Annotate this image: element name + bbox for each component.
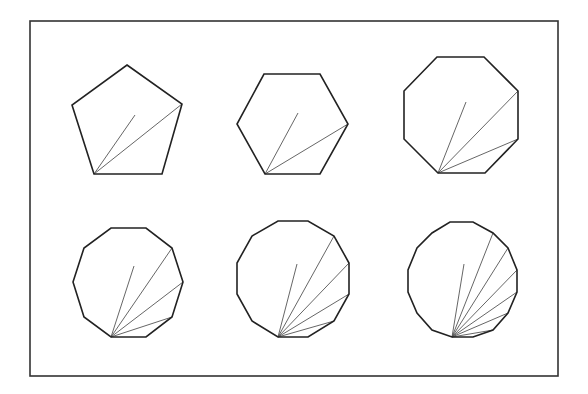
pentagon-diagonal-1	[94, 104, 182, 174]
polygon-group	[72, 57, 518, 337]
pentagon-outline	[72, 65, 182, 174]
hexagon-diagonal-0	[265, 113, 298, 174]
tetradecagon-diagonal-1	[452, 233, 493, 337]
dodecagon-diagonal-0	[278, 264, 297, 337]
octagon-diagonal-1	[438, 91, 518, 173]
tetradecagon-figure	[408, 222, 517, 337]
polygon-diagram	[0, 0, 588, 394]
hexagon-diagonal-1	[265, 124, 348, 174]
octagon-figure	[404, 57, 518, 173]
pentagon-figure	[72, 65, 182, 174]
hexagon-figure	[237, 74, 348, 174]
octagon-diagonal-0	[438, 102, 466, 173]
dodecagon-figure	[237, 221, 349, 337]
decagon-diagonal-2	[111, 282, 183, 337]
dodecagon-diagonal-1	[278, 236, 334, 337]
decagon-diagonal-0	[111, 266, 134, 337]
decagon-figure	[73, 228, 183, 337]
decagon-diagonal-3	[111, 317, 172, 337]
octagon-diagonal-2	[438, 139, 518, 173]
dodecagon-diagonal-4	[278, 321, 334, 337]
pentagon-diagonal-0	[94, 115, 135, 174]
decagon-outline	[73, 228, 183, 337]
